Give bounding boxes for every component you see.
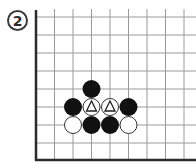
black-stone xyxy=(64,98,82,116)
white-stone-marked xyxy=(102,99,119,116)
board-edges xyxy=(35,10,196,161)
white-stone-marked xyxy=(83,99,100,116)
go-board xyxy=(0,0,196,164)
white-stone xyxy=(120,117,137,134)
white-stone xyxy=(65,117,82,134)
black-stone xyxy=(120,98,138,116)
black-stone xyxy=(101,116,119,134)
black-stone xyxy=(83,80,101,98)
grid-lines xyxy=(36,9,196,160)
black-stone xyxy=(83,116,101,134)
